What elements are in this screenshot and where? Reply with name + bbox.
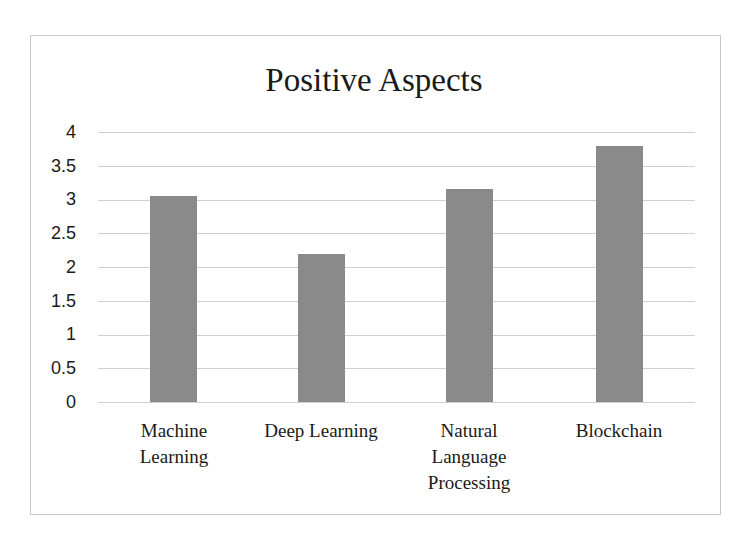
bar-blockchain [596, 146, 643, 403]
x-category-label: Blockchain [549, 418, 689, 444]
y-tick-label: 1 [36, 324, 76, 344]
y-tick-label: 0.5 [36, 358, 76, 378]
bar-natural-language-processing [446, 189, 493, 402]
x-category-label: Deep Learning [251, 418, 391, 444]
y-tick-label: 3 [36, 189, 76, 209]
y-tick-label: 2.5 [36, 223, 76, 243]
bar-deep-learning [298, 254, 345, 403]
x-category-label: Natural Language Processing [399, 418, 539, 496]
y-tick-label: 3.5 [36, 156, 76, 176]
chart-title: Positive Aspects [0, 60, 748, 100]
plot-area [98, 132, 695, 402]
bar-machine-learning [150, 196, 197, 402]
gridline [98, 132, 695, 133]
gridline-baseline [98, 402, 695, 403]
x-category-label: Machine Learning [104, 418, 244, 470]
y-tick-label: 4 [36, 122, 76, 142]
y-tick-label: 0 [36, 392, 76, 412]
y-tick-label: 1.5 [36, 291, 76, 311]
y-tick-label: 2 [36, 257, 76, 277]
